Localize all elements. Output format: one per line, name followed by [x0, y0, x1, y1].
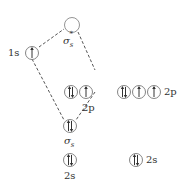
- orbital-right-2s: [130, 154, 143, 167]
- orbital-left-2p-2: [80, 86, 93, 99]
- label-left-2p: 2p: [82, 103, 95, 113]
- label-sigma-star: σs*: [63, 35, 77, 49]
- label-right-2s: 2s: [146, 155, 158, 165]
- line-1s-to-sigma-star: [39, 29, 64, 47]
- orbital-right-2p-3: [148, 86, 161, 99]
- label-right-2p: 2p: [164, 87, 177, 97]
- orbital-right-2p-2: [133, 86, 146, 99]
- label-sigma: σs: [64, 136, 74, 149]
- mo-diagram: [0, 0, 189, 184]
- orbital-right-2p-1: [118, 86, 131, 99]
- label-1s: 1s: [8, 48, 20, 58]
- label-left-2s: 2s: [64, 171, 76, 181]
- orbital-left-2s: [64, 154, 77, 167]
- orbital-left-2p-1: [65, 86, 78, 99]
- orbital-sigma-s: [64, 120, 77, 133]
- line-2p-to-sigma-star: [78, 32, 95, 70]
- orbital-1s: [26, 47, 39, 60]
- line-1s-to-sigma: [32, 59, 64, 120]
